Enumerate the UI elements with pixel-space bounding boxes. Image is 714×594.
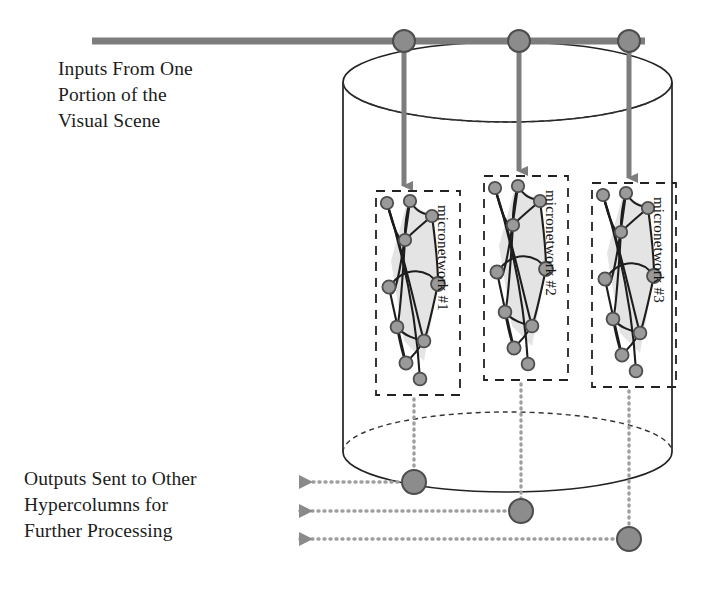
input-node-1 <box>393 30 415 52</box>
inputs-label-line-1: Inputs From One <box>58 58 193 79</box>
inputs-label: Inputs From OnePortion of theVisual Scen… <box>58 56 193 134</box>
outputs-label-line-3: Further Processing <box>24 520 173 541</box>
outputs-label-line-2: Hypercolumns for <box>24 494 168 515</box>
micronetwork-2-label: micronetwork #2 <box>542 190 559 296</box>
input-node-2 <box>508 30 530 52</box>
output-node-2 <box>509 499 533 523</box>
input-node-3 <box>618 30 640 52</box>
diagram-canvas: Inputs From OnePortion of theVisual Scen… <box>0 0 714 594</box>
outputs-label-line-1: Outputs Sent to Other <box>24 468 197 489</box>
output-node-1 <box>402 470 426 494</box>
output-node-3 <box>617 527 641 551</box>
outputs-label: Outputs Sent to OtherHypercolumns forFur… <box>24 466 197 544</box>
inputs-label-line-3: Visual Scene <box>58 110 160 131</box>
output-pathway <box>300 470 641 551</box>
inputs-label-line-2: Portion of the <box>58 84 167 105</box>
micronetwork-1-label: micronetwork #1 <box>434 205 451 311</box>
micronetwork-3-label: micronetwork #3 <box>650 197 667 303</box>
